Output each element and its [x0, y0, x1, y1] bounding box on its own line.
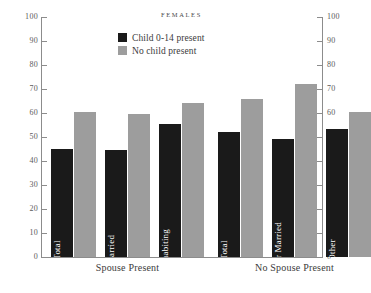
bar-light-cohabiting-2 [182, 103, 204, 257]
bar-light-never-married-4 [295, 84, 317, 257]
y-label-left-80: 80 [29, 61, 38, 69]
y-axis-right [322, 17, 323, 257]
y-label-left-20: 20 [29, 205, 38, 213]
x-axis-baseline [41, 257, 323, 258]
bar-dark-total-0: Total [51, 149, 73, 257]
y-label-right-100: 100 [327, 13, 340, 21]
y-label-left-10: 10 [29, 229, 38, 237]
bar-light-other-5 [349, 112, 371, 257]
y-label-left-70: 70 [29, 85, 38, 93]
plot-area: TotalMarriedCohabitingTotalNever Married… [42, 17, 322, 257]
y-label-left-50: 50 [29, 133, 38, 141]
y-label-left-0: 0 [34, 253, 38, 261]
y-label-right-60: 60 [327, 109, 336, 117]
y-label-right-80: 80 [327, 61, 336, 69]
bar-light-total-3 [241, 99, 263, 257]
y-label-left-60: 60 [29, 109, 38, 117]
bar-light-total-0 [74, 112, 96, 257]
bar-dark-married-1: Married [105, 150, 127, 257]
y-label-left-40: 40 [29, 157, 38, 165]
group-label-no-spouse-present: No Spouse Present [235, 262, 355, 273]
bar-dark-never-married-4: Never Married [272, 139, 294, 257]
y-label-left-100: 100 [25, 13, 38, 21]
group-label-spouse-present: Spouse Present [68, 262, 188, 273]
y-label-left-30: 30 [29, 181, 38, 189]
y-label-left-90: 90 [29, 37, 38, 45]
y-label-right-70: 70 [327, 85, 336, 93]
bar-light-married-1 [128, 114, 150, 257]
bar-category-label: Married [106, 235, 116, 265]
bar-dark-other-5: Other [326, 129, 348, 257]
y-label-right-90: 90 [327, 37, 336, 45]
bar-dark-total-3: Total [218, 132, 240, 257]
bar-dark-cohabiting-2: Cohabiting [159, 124, 181, 257]
